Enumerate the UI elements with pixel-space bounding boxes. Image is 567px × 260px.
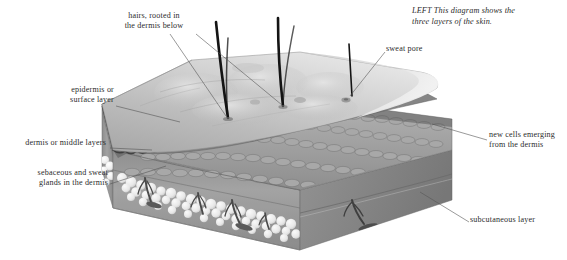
label-glands: sebaceous and sweat glands in the dermis: [0, 168, 108, 189]
label-hairs: hairs, rooted in the dermis below: [104, 11, 204, 32]
sweat-pore: [341, 98, 350, 103]
label-new-cells: new cells emerging from the dermis: [489, 130, 567, 151]
label-epidermis: epidermis or surface layer: [26, 85, 114, 106]
label-sweat-pore: sweat pore: [386, 44, 456, 54]
figure-caption: LEFT This diagram shows the three layers…: [412, 5, 562, 27]
skin-diagram-figure: hairs, rooted in the dermis below sweat …: [0, 0, 567, 260]
label-dermis: dermis or middle layers: [2, 138, 106, 148]
label-subcutaneous: subcutaneous layer: [470, 215, 567, 225]
